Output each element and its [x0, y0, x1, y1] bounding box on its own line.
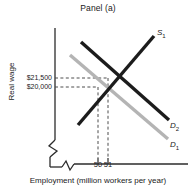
x-axis-break-zigzag — [62, 161, 74, 170]
plot-area — [0, 0, 196, 192]
demand-curve-1 — [70, 55, 168, 139]
y-axis-break-zigzag — [49, 140, 57, 157]
economics-supply-demand-chart: Panel (a) Real wage Employment (million … — [0, 0, 196, 192]
